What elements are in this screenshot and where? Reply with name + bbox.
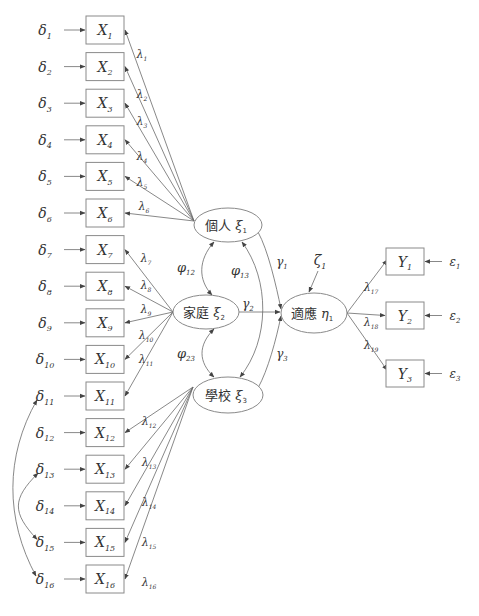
loading-label-lambda11: λ11 bbox=[138, 353, 154, 367]
loading-label-lambda13: λ13 bbox=[141, 456, 157, 470]
loading-label-lambda12: λ12 bbox=[141, 415, 157, 429]
loading-label-lambda1: λ1 bbox=[136, 48, 148, 62]
loading-label-lambda8: λ8 bbox=[140, 279, 152, 293]
error-label-epsilon1: ε1 bbox=[450, 255, 461, 271]
latent-label-xi3: 學校 ξ3 bbox=[205, 388, 247, 405]
disturbance-label-zeta1: ζ1 bbox=[314, 252, 327, 271]
error-label-delta11: δ11 bbox=[36, 388, 55, 407]
error-label-epsilon3: ε3 bbox=[450, 367, 461, 383]
error-label-delta13: δ13 bbox=[36, 461, 55, 480]
error-label-delta6: δ6 bbox=[38, 205, 52, 224]
error-label-delta1: δ1 bbox=[38, 22, 52, 41]
loading-arrow-lambda4 bbox=[125, 140, 194, 221]
covariance-arc-phi23 bbox=[202, 329, 214, 377]
error-label-delta10: δ10 bbox=[36, 351, 55, 370]
shape-layer bbox=[86, 16, 424, 593]
covariance-label-phi13: φ13 bbox=[231, 263, 250, 280]
loading-label-lambda18: λ18 bbox=[363, 316, 379, 330]
loading-arrow-lambda16 bbox=[125, 387, 193, 579]
diagram-svg: X1δ1X2δ2X3δ3X4δ4X5δ5X6δ6X7δ7X8δ8X9δ9X10δ… bbox=[0, 0, 479, 616]
loading-label-lambda3: λ3 bbox=[136, 115, 148, 129]
loading-label-lambda15: λ15 bbox=[141, 536, 157, 550]
loading-label-lambda17: λ17 bbox=[363, 281, 379, 295]
path-label-gamma1: γ1 bbox=[276, 255, 288, 271]
error-label-delta15: δ15 bbox=[36, 534, 55, 553]
loading-label-lambda10: λ10 bbox=[138, 329, 154, 343]
error-label-delta16: δ16 bbox=[36, 571, 55, 590]
error-label-delta7: δ7 bbox=[38, 242, 52, 261]
error-label-delta4: δ4 bbox=[38, 132, 52, 151]
loading-arrow-lambda13 bbox=[125, 387, 193, 469]
error-label-epsilon2: ε2 bbox=[450, 309, 461, 325]
error-label-delta12: δ12 bbox=[36, 425, 55, 444]
error-label-delta5: δ5 bbox=[38, 168, 52, 187]
loading-arrow-lambda11 bbox=[125, 312, 173, 396]
loading-arrow-lambda15 bbox=[125, 387, 193, 542]
path-gamma1 bbox=[258, 232, 281, 309]
sem-path-diagram: X1δ1X2δ2X3δ3X4δ4X5δ5X6δ6X7δ7X8δ8X9δ9X10δ… bbox=[0, 0, 479, 616]
disturbance-arrow-zeta1 bbox=[309, 271, 318, 292]
loading-label-lambda16: λ16 bbox=[141, 576, 157, 590]
covariance-arc-phi12 bbox=[202, 242, 214, 295]
loading-label-lambda7: λ7 bbox=[140, 252, 152, 266]
error-label-delta14: δ14 bbox=[36, 498, 55, 517]
loading-label-lambda14: λ14 bbox=[141, 496, 157, 510]
loading-label-lambda4: λ4 bbox=[136, 150, 148, 164]
latent-label-xi2: 家庭 ξ2 bbox=[183, 305, 225, 322]
error-label-delta3: δ3 bbox=[38, 95, 52, 114]
covariance-label-phi23: φ23 bbox=[177, 346, 196, 363]
loading-label-lambda2: λ2 bbox=[136, 88, 148, 102]
path-label-gamma3: γ3 bbox=[276, 347, 288, 363]
loading-arrow-lambda1 bbox=[125, 30, 194, 221]
latent-label-eta1: 適應 η1 bbox=[291, 306, 333, 323]
path-label-gamma2: γ2 bbox=[242, 297, 254, 313]
latent-label-xi1: 個人 ξ1 bbox=[205, 218, 247, 235]
loading-label-lambda5: λ5 bbox=[136, 176, 148, 190]
covariance-label-phi12: φ12 bbox=[177, 260, 196, 277]
loading-label-lambda19: λ19 bbox=[363, 339, 379, 353]
error-label-delta2: δ2 bbox=[38, 59, 52, 78]
loading-label-lambda6: λ6 bbox=[138, 200, 150, 214]
loading-arrow-lambda2 bbox=[125, 67, 194, 221]
loading-arrow-lambda14 bbox=[125, 387, 193, 506]
error-label-delta9: δ9 bbox=[38, 315, 52, 334]
loading-label-lambda9: λ9 bbox=[140, 303, 152, 317]
loading-arrow-lambda3 bbox=[125, 103, 194, 221]
error-label-delta8: δ8 bbox=[38, 278, 52, 297]
